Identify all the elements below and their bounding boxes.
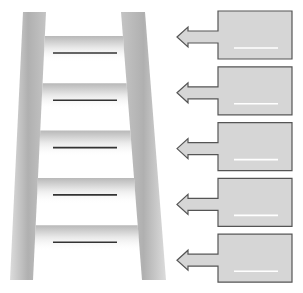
ladder-rung — [37, 178, 136, 204]
callout-arrow-box — [177, 178, 292, 226]
callout — [177, 11, 292, 59]
ladder-rung — [39, 131, 132, 157]
callout — [177, 178, 292, 226]
rung-band — [37, 178, 136, 204]
rung-band — [34, 225, 139, 251]
rung-band — [44, 36, 125, 62]
rung-band — [41, 83, 128, 109]
callout-arrow-box — [177, 123, 292, 171]
callout-arrow-box — [177, 11, 292, 59]
rung-band — [39, 131, 132, 157]
callout-arrow-box — [177, 234, 292, 282]
ladder-rung — [44, 36, 125, 62]
callout-arrow-box — [177, 67, 292, 115]
ladder-rung — [41, 83, 128, 109]
callout — [177, 234, 292, 282]
ladder-diagram — [0, 0, 303, 293]
callout — [177, 67, 292, 115]
ladder-rung — [34, 225, 139, 251]
callout — [177, 123, 292, 171]
